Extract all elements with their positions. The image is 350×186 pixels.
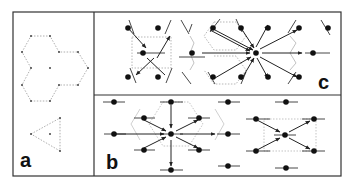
- figure-canvas: [0, 0, 350, 186]
- panel-a-triangle: [30, 117, 61, 152]
- panel-c-hexagon-group: [179, 19, 331, 84]
- panel-a-honeycomb: [22, 36, 88, 101]
- panel-b-hexagon-group: [103, 99, 240, 173]
- panel-label-c: c: [318, 72, 329, 92]
- panel-c-left-group: [125, 20, 172, 83]
- panel-label-a: a: [20, 150, 31, 170]
- figure-frame: [13, 12, 341, 176]
- panel-b-rect-group: [246, 99, 325, 171]
- panel-label-b: b: [106, 152, 118, 172]
- panel-a-vertices: [21, 35, 89, 102]
